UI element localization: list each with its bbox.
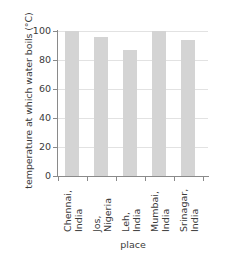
x-label-mumbai-india-line2: India xyxy=(160,209,171,232)
bar-srinagar-india xyxy=(181,40,195,176)
x-label-leh-india: Leh, India xyxy=(120,182,144,234)
x-tick-mark-0 xyxy=(58,177,59,181)
x-label-leh-india-line1: Leh, xyxy=(120,212,131,232)
bar-chart: temperature at which water boils (°C) 10… xyxy=(0,0,225,261)
y-tick-mark-100 xyxy=(53,31,58,32)
x-label-srinagar-india-line1: Srinagar, xyxy=(178,189,189,232)
x-label-leh-india-line2: India xyxy=(131,209,142,232)
plot-area xyxy=(58,31,208,176)
x-label-mumbai-india-line1: Mumbai, xyxy=(149,191,160,232)
x-label-jos-nigeria-line2: Nigeria xyxy=(102,198,113,232)
y-tick-label-0-wrap: 0 xyxy=(20,170,51,182)
y-tick-label-60-wrap: 60 xyxy=(20,83,51,95)
x-label-jos-nigeria: Jos, Nigeria xyxy=(91,182,115,234)
gridline-100 xyxy=(58,31,208,32)
x-label-mumbai-india: Mumbai, India xyxy=(149,182,173,234)
x-tick-mark-5 xyxy=(203,177,204,181)
y-tick-label-40: 40 xyxy=(23,112,51,123)
x-tick-mark-4 xyxy=(174,177,175,181)
x-label-jos-nigeria-line1: Jos, xyxy=(91,215,102,232)
y-tick-label-80-wrap: 80 xyxy=(20,54,51,66)
bar-mumbai-india xyxy=(152,31,166,176)
y-tick-label-100-wrap: 100 xyxy=(20,25,51,37)
y-tick-label-20: 20 xyxy=(23,141,51,152)
y-tick-label-40-wrap: 40 xyxy=(20,112,51,124)
x-label-srinagar-india-line2: India xyxy=(189,209,200,232)
bar-chennai-india xyxy=(65,31,79,176)
y-tick-mark-40 xyxy=(53,118,58,119)
x-label-chennai-india-line2: India xyxy=(73,209,84,232)
y-tick-label-60: 60 xyxy=(23,83,51,94)
y-tick-mark-80 xyxy=(53,60,58,61)
y-tick-label-0: 0 xyxy=(23,170,51,181)
y-tick-mark-60 xyxy=(53,89,58,90)
bar-leh-india xyxy=(123,50,137,176)
y-tick-label-20-wrap: 20 xyxy=(20,141,51,153)
x-label-srinagar-india: Srinagar, India xyxy=(178,182,202,234)
x-label-chennai-india-line1: Chennai, xyxy=(62,190,73,232)
x-tick-mark-2 xyxy=(116,177,117,181)
x-axis-title: place xyxy=(58,239,208,250)
y-tick-mark-20 xyxy=(53,147,58,148)
y-tick-label-80: 80 xyxy=(23,54,51,65)
x-tick-mark-3 xyxy=(145,177,146,181)
y-tick-label-100: 100 xyxy=(23,25,51,36)
x-label-chennai-india: Chennai, India xyxy=(62,182,86,234)
x-axis-line xyxy=(57,176,209,177)
bar-jos-nigeria xyxy=(94,37,108,176)
x-tick-mark-1 xyxy=(87,177,88,181)
